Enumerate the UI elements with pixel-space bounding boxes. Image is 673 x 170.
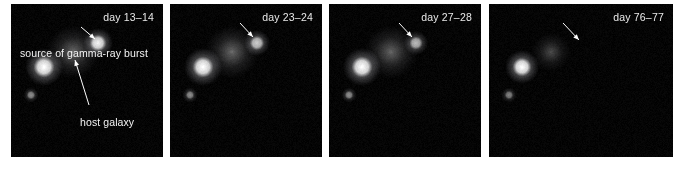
sky-image	[489, 4, 673, 157]
day-label: day 76–77	[613, 11, 664, 23]
host-galaxy-label: host galaxy	[80, 116, 134, 128]
image-panel-2: day 23–24	[170, 4, 322, 157]
sky-image	[170, 4, 322, 157]
image-panel-4: day 76–77	[489, 4, 673, 157]
day-label: day 23–24	[262, 11, 313, 23]
gamma-ray-burst-figure: day 13–14source of gamma-ray bursthost g…	[0, 0, 673, 170]
grb-source-label: source of gamma-ray burst	[20, 47, 148, 59]
image-panel-1: day 13–14source of gamma-ray bursthost g…	[11, 4, 163, 157]
sky-image	[11, 4, 163, 157]
day-label: day 27–28	[421, 11, 472, 23]
image-panel-3: day 27–28	[329, 4, 481, 157]
day-label: day 13–14	[103, 11, 154, 23]
sky-image	[329, 4, 481, 157]
